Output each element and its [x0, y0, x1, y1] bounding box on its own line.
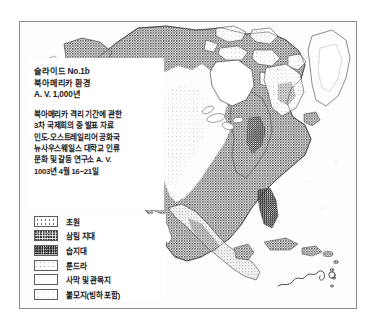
florida-peninsula: [258, 188, 278, 228]
map-frame: 슬라이드 No.1b 북아메리카 환경 A. V. 1,000년 북아메리카 격…: [19, 21, 357, 309]
caption-title-line-1: 슬라이드 No.1b: [34, 66, 158, 78]
legend-label-tundra: 툰드라: [66, 260, 86, 271]
legend-label-forest: 삼림 지대: [66, 230, 95, 241]
caption-body-line-6: 1003년 4월 16~21일: [34, 166, 158, 177]
legend-item-grassland: 초원: [34, 214, 166, 229]
legend-swatch-grassland: [34, 216, 58, 227]
scanned-page: 슬라이드 No.1b 북아메리카 환경 A. V. 1,000년 북아메리카 격…: [0, 0, 377, 329]
legend-item-wetland: 습지대: [34, 243, 166, 258]
legend-swatch-barren: [34, 289, 58, 300]
legend-item-desert-scrub: 사막 및 관목지: [34, 272, 166, 287]
legend-swatch-wetland: [34, 245, 58, 256]
caption-body-line-2: 3차 국제회의 중 발표 자료: [34, 120, 158, 131]
legend-swatch-forest: [34, 230, 58, 241]
caption-body-line-4: 뉴사우스웨일스 대학교 인류: [34, 143, 158, 154]
handwritten-signature-mark: [276, 266, 338, 294]
caption-body: 북아메리카 격리 기간에 관한 3차 국제회의 중 발표 자료 인도-오스트레일…: [34, 109, 158, 177]
caption-title-line-3: A. V. 1,000년: [34, 89, 158, 101]
legend-label-grassland: 초원: [66, 216, 80, 227]
legend-item-barren: 불모지(빙하 포함): [34, 287, 166, 302]
caption-title: 슬라이드 No.1b 북아메리카 환경 A. V. 1,000년: [34, 66, 158, 101]
map-legend: 초원 삼림 지대 습지대 툰드라 사막 및 관목지 불모지(빙하 포함): [34, 214, 166, 302]
caption-body-line-1: 북아메리카 격리 기간에 관한: [34, 109, 158, 120]
legend-label-desert-scrub: 사막 및 관목지: [66, 274, 111, 285]
newfoundland: [304, 112, 320, 126]
caption-title-line-2: 북아메리카 환경: [34, 78, 158, 90]
legend-label-wetland: 습지대: [66, 245, 86, 256]
legend-item-forest: 삼림 지대: [34, 229, 166, 244]
legend-item-tundra: 툰드라: [34, 258, 166, 273]
caption-body-line-5: 문화 및 갈등 연구소 A. V.: [34, 154, 158, 165]
slide-caption-block: 슬라이드 No.1b 북아메리카 환경 A. V. 1,000년 북아메리카 격…: [34, 66, 158, 177]
legend-label-barren: 불모지(빙하 포함): [66, 289, 120, 300]
caption-body-line-3: 인도-오스트레일리어 공화국: [34, 132, 158, 143]
greenland-icecap: [308, 30, 350, 106]
legend-swatch-tundra: [34, 260, 58, 271]
legend-swatch-desert-scrub: [34, 274, 58, 285]
